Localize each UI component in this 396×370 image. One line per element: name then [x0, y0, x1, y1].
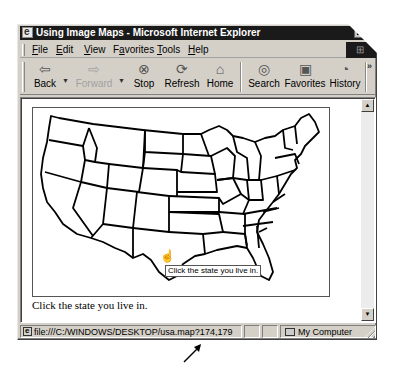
page-caption: Click the state you live in.	[32, 299, 147, 311]
callout-arrow-icon	[182, 342, 204, 364]
menu-bar: File Edit View Favorites Tools Help	[20, 42, 376, 58]
back-dropdown-icon[interactable]: ▼	[62, 77, 69, 84]
search-button[interactable]: ◎ Search	[245, 61, 283, 93]
status-url: file:///C:/WINDOWS/DESKTOP/usa.map?174,1…	[34, 327, 232, 337]
status-zone-panel: My Computer	[280, 325, 376, 338]
refresh-button[interactable]: ⟳ Refresh	[162, 61, 202, 93]
refresh-icon: ⟳	[173, 61, 191, 77]
vertical-scrollbar[interactable]: ▲ ▼	[361, 99, 374, 321]
standard-toolbar: ⇦ Back ▼ ⇨ Forward ▼ ⊗ Stop ⟳ Refresh ⌂ …	[20, 59, 376, 95]
favorites-folder-icon: ▣	[296, 61, 314, 77]
status-panel-blank	[262, 325, 278, 338]
status-panel-blank	[244, 325, 260, 338]
window-title: Using Image Maps - Microsoft Internet Ex…	[36, 27, 260, 38]
stop-button[interactable]: ⊗ Stop	[130, 61, 158, 93]
forward-dropdown-icon[interactable]: ▼	[118, 77, 125, 84]
home-icon: ⌂	[211, 61, 229, 77]
status-bar: file:///C:/WINDOWS/DESKTOP/usa.map?174,1…	[20, 324, 376, 339]
ie-app-icon[interactable]	[22, 27, 33, 38]
scroll-up-arrow-icon[interactable]: ▲	[361, 99, 374, 112]
menubar-grip[interactable]	[22, 44, 25, 56]
menu-help[interactable]: Help	[188, 42, 209, 58]
ie-page-icon	[23, 327, 32, 336]
status-zone: My Computer	[298, 327, 352, 337]
scroll-down-arrow-icon[interactable]: ▼	[361, 308, 374, 321]
menu-file[interactable]: File	[32, 42, 48, 58]
home-button[interactable]: ⌂ Home	[204, 61, 236, 93]
menu-view[interactable]: View	[84, 42, 106, 58]
search-icon: ◎	[255, 61, 273, 77]
map-tooltip: Click the state you live in.	[165, 265, 261, 277]
status-url-panel: file:///C:/WINDOWS/DESKTOP/usa.map?174,1…	[20, 325, 242, 338]
history-button[interactable]: ◔ History	[327, 61, 363, 93]
my-computer-icon	[285, 328, 295, 336]
usa-image-map[interactable]: ☝ Click the state you live in.	[32, 107, 330, 297]
menu-edit[interactable]: Edit	[56, 42, 73, 58]
toolbar-overflow-chevron[interactable]: »	[367, 61, 372, 71]
toolbar-grip[interactable]	[22, 62, 25, 92]
forward-button[interactable]: ⇨ Forward	[72, 61, 116, 93]
history-icon: ◔	[336, 61, 354, 77]
browser-window: Using Image Maps - Microsoft Internet Ex…	[17, 24, 377, 340]
menu-favorites[interactable]: Favorites	[113, 42, 154, 58]
hand-pointer-cursor-icon: ☝	[160, 249, 175, 263]
toolbar-separator	[240, 62, 242, 92]
favorites-button[interactable]: ▣ Favorites	[284, 61, 326, 93]
back-arrow-icon: ⇦	[36, 61, 54, 77]
back-button[interactable]: ⇦ Back	[30, 61, 60, 93]
stop-icon: ⊗	[135, 61, 153, 77]
title-bar[interactable]: Using Image Maps - Microsoft Internet Ex…	[20, 26, 365, 40]
forward-arrow-icon: ⇨	[85, 61, 103, 77]
page-viewport: ☝ Click the state you live in. Click the…	[20, 97, 376, 323]
menu-tools[interactable]: Tools	[157, 42, 180, 58]
